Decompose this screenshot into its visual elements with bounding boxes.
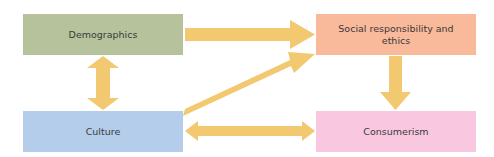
node-consumerism: Consumerism xyxy=(316,111,476,152)
arrow-demographics-culture xyxy=(87,56,119,110)
arrow-culture-consumerism xyxy=(185,121,315,141)
arrow-culture-to-social xyxy=(183,52,315,116)
node-culture: Culture xyxy=(23,111,183,152)
node-label: Culture xyxy=(86,126,121,138)
node-demographics: Demographics xyxy=(23,14,183,55)
node-social-responsibility: Social responsibility and ethics xyxy=(316,14,476,55)
arrow-demographics-to-social xyxy=(185,20,315,49)
arrow-social-to-consumerism xyxy=(380,56,411,110)
node-label: Consumerism xyxy=(363,126,428,138)
node-label: Social responsibility and ethics xyxy=(324,23,468,47)
node-label: Demographics xyxy=(69,29,138,41)
